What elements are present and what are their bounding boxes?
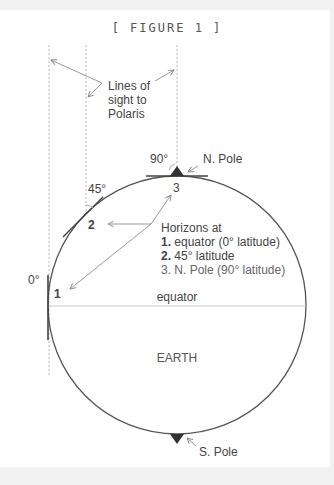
legend-item-2: 2. 45° latitude [161,249,235,263]
sightlines-label-3: Polaris [108,107,145,121]
legend-arrow-3 [151,195,171,224]
legend-item-1: 1. equator (0° latitude) [161,235,280,249]
earth-label: EARTH [157,351,197,365]
earth-latitude-diagram: Lines of sight to Polaris equator EARTH … [0,0,334,485]
point-1-label: 1 [54,287,61,301]
south-pole-label: S. Pole [199,445,238,459]
legend-arrow-1 [70,224,151,289]
south-pole-marker [170,434,184,444]
sightlines-label-1: Lines of [108,79,151,93]
angle-45-label: 45° [88,182,106,196]
equator-label: equator [157,290,198,304]
angle-45-arc [86,205,93,208]
horizon-45 [63,197,103,237]
legend-heading: Horizons at [161,221,222,235]
angle-90-arc [169,164,175,170]
point-3-label: 3 [173,181,180,195]
sightlines-label-2: sight to [108,93,147,107]
earth-circle [48,176,306,434]
north-pole-marker [170,166,184,176]
north-pole-arrow [188,166,198,172]
legend-item-3: 3. N. Pole (90° latitude) [161,263,285,277]
sightline-arrow-mid [88,83,102,97]
north-pole-label: N. Pole [203,152,243,166]
south-pole-arrow [187,438,196,446]
angle-0-label: 0° [28,273,40,287]
sightline-arrow-left [51,60,102,83]
angle-90-label: 90° [150,152,168,166]
sightline-arrow-right [155,70,174,81]
point-2-label: 2 [88,218,95,232]
